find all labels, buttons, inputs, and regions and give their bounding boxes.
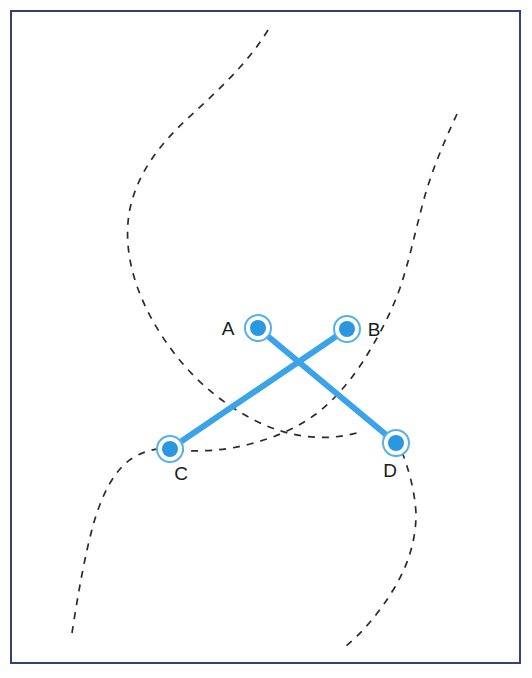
node-c-dot[interactable] [162,441,178,457]
figure-canvas: A B C D [0,0,532,678]
node-a[interactable] [245,315,271,341]
contour-curve-lower-right [346,452,416,646]
contour-curve-lower-left [72,448,176,633]
node-c[interactable] [157,436,183,462]
connector-b-to-c[interactable] [170,329,347,449]
node-b-dot[interactable] [339,321,355,337]
node-b[interactable] [334,316,360,342]
contour-curve-upper-right [176,114,457,451]
diagram-svg: A B C D [0,0,532,678]
node-label-d: D [383,460,397,481]
node-label-c: C [174,463,188,484]
node-label-b: B [368,319,381,340]
node-d[interactable] [383,430,409,456]
node-d-dot[interactable] [388,435,404,451]
node-a-dot[interactable] [250,320,266,336]
contour-curve-upper-left [128,30,363,437]
node-label-a: A [222,318,235,339]
